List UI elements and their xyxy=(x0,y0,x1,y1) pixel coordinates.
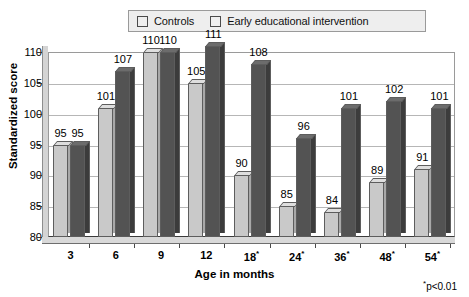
bar-face xyxy=(251,64,266,237)
y-tick-mark xyxy=(37,206,42,207)
y-tick-mark xyxy=(37,52,42,53)
y-tick-mark xyxy=(37,114,42,115)
bar-side xyxy=(85,141,90,234)
significance-footnote: *p<0.01 xyxy=(423,279,457,292)
bar xyxy=(386,101,401,237)
bar-value-label: 102 xyxy=(382,83,406,95)
y-tick-mark xyxy=(37,237,42,238)
bar-face xyxy=(234,175,249,237)
x-tick-mark xyxy=(224,244,225,248)
bar-face xyxy=(296,138,311,237)
bar-side xyxy=(220,42,225,233)
bar xyxy=(414,169,429,237)
bar-value-label: 107 xyxy=(111,53,135,65)
y-axis-title: Standardized score xyxy=(7,36,19,196)
x-tick-label: 3 xyxy=(51,249,91,261)
bar xyxy=(324,212,339,237)
x-tick-mark xyxy=(315,244,316,248)
bar-face xyxy=(115,71,130,238)
y-tick-mark xyxy=(37,145,42,146)
x-tick-mark xyxy=(450,244,451,248)
x-tick-label: 18* xyxy=(232,249,272,263)
x-tick-significance-marker: * xyxy=(392,249,395,258)
bar-face xyxy=(188,83,203,237)
bars-layer: 9595101107110110105111901088596841018910… xyxy=(48,52,455,237)
bar-value-label: 101 xyxy=(427,90,451,102)
bar-face xyxy=(279,206,294,237)
x-tick-label: 48* xyxy=(367,249,407,263)
x-tick-mark xyxy=(134,244,135,248)
x-tick-mark xyxy=(360,244,361,248)
bar xyxy=(143,52,158,237)
bar-side xyxy=(356,104,361,234)
bar xyxy=(160,52,175,237)
bar-value-label: 108 xyxy=(247,46,271,58)
bar-top xyxy=(115,67,135,72)
footnote-text: p<0.01 xyxy=(426,281,457,292)
bar-side xyxy=(266,60,271,233)
bar xyxy=(279,206,294,237)
x-tick-label: 36* xyxy=(322,249,362,263)
bar-face xyxy=(98,108,113,238)
bar-face xyxy=(53,145,68,238)
bar-side xyxy=(401,97,406,233)
x-tick-significance-marker: * xyxy=(301,249,304,258)
bar-value-label: 111 xyxy=(201,28,225,40)
legend-label-intervention: Early educational intervention xyxy=(227,15,368,27)
bar-value-label: 95 xyxy=(66,127,90,139)
x-tick-mark xyxy=(405,244,406,248)
legend-label-controls: Controls xyxy=(154,15,194,27)
legend-entry-controls: Controls xyxy=(137,15,194,27)
bar-face xyxy=(70,145,85,238)
bar xyxy=(205,46,220,237)
bar-value-label: 110 xyxy=(156,34,180,46)
bar-face xyxy=(160,52,175,237)
bar-face xyxy=(386,101,401,237)
chart-legend: Controls Early educational intervention xyxy=(128,10,426,32)
legend-swatch-controls xyxy=(137,16,148,27)
y-tick-mark xyxy=(37,175,42,176)
bar-value-label: 101 xyxy=(337,90,361,102)
bar xyxy=(234,175,249,237)
bar xyxy=(53,145,68,238)
bar-side xyxy=(446,104,451,234)
x-tick-label: 12 xyxy=(186,249,226,261)
x-tick-label: 24* xyxy=(277,249,317,263)
bar-face xyxy=(431,108,446,238)
x-tick-significance-marker: * xyxy=(437,249,440,258)
x-axis-title: Age in months xyxy=(0,268,469,280)
bar-face xyxy=(205,46,220,237)
bar xyxy=(369,182,384,238)
legend-swatch-intervention xyxy=(210,16,221,27)
bar-face xyxy=(369,182,384,238)
bar xyxy=(70,145,85,238)
bar-face xyxy=(414,169,429,237)
bar xyxy=(296,138,311,237)
bar-face xyxy=(341,108,356,238)
bar-side xyxy=(130,67,135,234)
bar xyxy=(98,108,113,238)
x-tick-mark xyxy=(270,244,271,248)
bar-face xyxy=(324,212,339,237)
x-tick-mark xyxy=(89,244,90,248)
bar xyxy=(251,64,266,237)
bar-side xyxy=(311,134,316,233)
x-tick-label: 9 xyxy=(141,249,181,261)
bar xyxy=(115,71,130,238)
y-tick-mark xyxy=(37,83,42,84)
x-tick-label: 6 xyxy=(96,249,136,261)
x-tick-significance-marker: * xyxy=(256,249,259,258)
x-tick-label: 54* xyxy=(412,249,452,263)
plot-floor xyxy=(42,237,455,244)
bar-face xyxy=(143,52,158,237)
bar xyxy=(341,108,356,238)
bar-top xyxy=(70,141,90,146)
x-tick-significance-marker: * xyxy=(347,249,350,258)
bar-value-label: 96 xyxy=(292,120,316,132)
x-tick-mark xyxy=(179,244,180,248)
bar xyxy=(188,83,203,237)
bar xyxy=(431,108,446,238)
legend-entry-intervention: Early educational intervention xyxy=(210,15,368,27)
bar-chart: Controls Early educational intervention … xyxy=(0,0,469,297)
bar-side xyxy=(175,48,180,233)
